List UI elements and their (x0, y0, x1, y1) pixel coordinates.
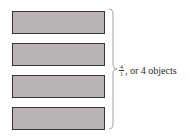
bar-3 (12, 75, 105, 98)
bar-4 (12, 107, 105, 130)
fraction-numerator: 4 (119, 64, 124, 71)
bar-1 (12, 11, 105, 34)
fraction: 4 1 (119, 64, 124, 77)
count-label: 4 1 , or 4 objects (119, 64, 177, 77)
bar-2 (12, 43, 105, 66)
fraction-denominator: 1 (120, 71, 123, 77)
label-text: , or 4 objects (125, 65, 177, 76)
